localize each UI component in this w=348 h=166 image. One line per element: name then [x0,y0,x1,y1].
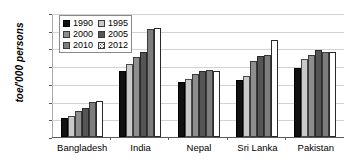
bar-group [286,14,344,137]
bar [61,118,68,137]
bar [206,70,213,137]
bar-cluster [294,14,336,137]
y-tick-mark [49,138,52,139]
legend-swatch-icon [98,31,105,38]
legend-item[interactable]: 2010 [63,40,93,50]
y-tick-mark [49,120,52,121]
x-axis-category-label: India [111,142,169,153]
bar [301,59,308,137]
y-tick-mark [49,49,52,50]
legend-label: 2000 [73,29,93,39]
legend-item[interactable]: 1995 [98,18,128,28]
y-axis-title: toe/'000 persons [14,8,25,118]
bar [257,56,264,137]
bar [133,57,140,137]
x-axis-category-label: Nepal [170,142,228,153]
bar-cluster [236,14,278,137]
x-axis-category-label: Bangladesh [53,142,111,153]
bar [308,55,315,137]
bar [126,64,133,137]
legend-label: 2012 [108,40,128,50]
bar-group [169,14,227,137]
bar [271,40,278,137]
bar [329,52,336,137]
bar [96,101,103,137]
bar [147,29,154,137]
x-axis-tick-mark [285,137,286,140]
legend-label: 1990 [73,18,93,28]
bar [75,111,82,137]
legend-label: 1995 [108,18,128,28]
legend-swatch-icon [63,42,70,49]
bar [192,74,199,137]
legend-label: 2010 [73,40,93,50]
bar [140,52,147,137]
bar [236,80,243,137]
y-tick-mark [49,85,52,86]
legend-item[interactable]: 2000 [63,29,93,39]
bar [178,82,185,137]
bar [89,102,96,137]
bar [322,52,329,137]
x-axis-line [52,137,344,138]
x-axis-category-label: Pakistan [287,142,345,153]
bar-chart: toe/'000 persons 0100200300400500600700 … [0,0,348,166]
x-axis-tick-mark [227,137,228,140]
bar [294,68,301,137]
bar [68,116,75,137]
bar [119,71,126,137]
y-tick-mark [49,14,52,15]
bar [82,108,89,137]
bar [199,71,206,137]
bar [315,50,322,137]
bar-cluster [178,14,220,137]
y-tick-mark [49,32,52,33]
bar-group [228,14,286,137]
legend-swatch-icon [98,42,105,49]
x-axis-labels: BangladeshIndiaNepalSri LankaPakistan [53,142,345,153]
legend-item[interactable]: 2012 [98,40,128,50]
chart-legend: 199019952000200520102012 [59,15,132,53]
bar [154,28,161,137]
legend-swatch-icon [63,31,70,38]
x-axis-tick-mark [168,137,169,140]
y-tick-mark [49,67,52,68]
legend-item[interactable]: 2005 [98,29,128,39]
bar [250,61,257,137]
legend-item[interactable]: 1990 [63,18,93,28]
x-axis-tick-mark [110,137,111,140]
y-tick-mark [49,103,52,104]
bar [243,76,250,137]
legend-label: 2005 [108,29,128,39]
bar [264,55,271,137]
legend-swatch-icon [98,20,105,27]
bar [213,71,220,137]
bar [185,79,192,137]
legend-swatch-icon [63,20,70,27]
x-axis-category-label: Sri Lanka [228,142,286,153]
